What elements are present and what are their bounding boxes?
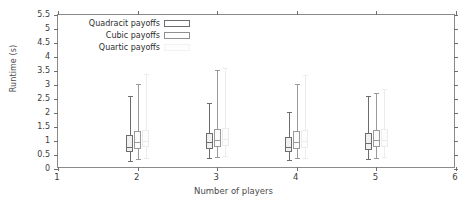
chart-legend: Quadracit payoffsCubic payoffsQuartic pa… bbox=[62, 18, 190, 54]
y-tick-label: 1 bbox=[24, 136, 50, 145]
x-tick-label: 6 bbox=[452, 172, 457, 182]
y-tick-right bbox=[454, 15, 458, 16]
x-tick bbox=[456, 167, 457, 171]
y-axis-label: Runtime (s) bbox=[9, 33, 18, 105]
x-tick bbox=[217, 167, 218, 171]
whisker-cap-low bbox=[366, 159, 371, 160]
box-iqr bbox=[206, 133, 213, 150]
box-iqr bbox=[373, 130, 380, 147]
whisker-cap-high bbox=[223, 68, 228, 69]
x-tick-label: 3 bbox=[213, 172, 218, 182]
whisker-cap-low bbox=[215, 157, 220, 158]
y-tick bbox=[54, 15, 58, 16]
median-line bbox=[285, 147, 292, 148]
y-tick-label: 3 bbox=[24, 80, 50, 89]
whisker-cap-high bbox=[215, 70, 220, 71]
whisker-cap-low bbox=[128, 161, 133, 162]
y-tick-label: 2 bbox=[24, 108, 50, 117]
box-iqr bbox=[214, 129, 221, 146]
x-tick-top bbox=[456, 11, 457, 15]
y-tick-right bbox=[454, 141, 458, 142]
whisker-cap-high bbox=[366, 96, 371, 97]
y-tick bbox=[54, 71, 58, 72]
legend-swatch bbox=[164, 44, 190, 51]
median-line bbox=[365, 143, 372, 144]
y-tick bbox=[54, 57, 58, 58]
whisker-cap-high bbox=[303, 75, 308, 76]
whisker-line bbox=[384, 89, 385, 157]
legend-swatch bbox=[164, 20, 190, 27]
y-tick bbox=[54, 127, 58, 128]
whisker-cap-high bbox=[207, 103, 212, 104]
whisker-cap-high bbox=[128, 96, 133, 97]
y-tick-right bbox=[454, 127, 458, 128]
whisker-cap-low bbox=[144, 158, 149, 159]
y-tick-label: 4.5 bbox=[24, 38, 50, 47]
x-tick bbox=[58, 167, 59, 171]
y-tick-label: 0 bbox=[24, 164, 50, 173]
y-tick bbox=[54, 85, 58, 86]
whisker-cap-high bbox=[374, 93, 379, 94]
y-tick bbox=[54, 29, 58, 30]
box-iqr bbox=[126, 135, 133, 152]
box-iqr bbox=[285, 137, 292, 152]
median-line bbox=[381, 140, 388, 141]
whisker-cap-high bbox=[136, 84, 141, 85]
x-tick-label: 5 bbox=[373, 172, 378, 182]
median-line bbox=[214, 140, 221, 141]
whisker-line bbox=[376, 93, 377, 158]
legend-label: Quartic payoffs bbox=[99, 43, 160, 52]
whisker-cap-low bbox=[207, 158, 212, 159]
y-tick-label: 0.5 bbox=[24, 150, 50, 159]
y-tick bbox=[54, 113, 58, 114]
y-tick-right bbox=[454, 29, 458, 30]
x-tick-top bbox=[217, 11, 218, 15]
x-tick-top bbox=[376, 11, 377, 15]
legend-item-1[interactable]: Cubic payoffs bbox=[62, 30, 190, 41]
median-line bbox=[126, 147, 133, 148]
median-line bbox=[373, 140, 380, 141]
legend-label: Quadracit payoffs bbox=[89, 19, 160, 28]
x-tick bbox=[138, 167, 139, 171]
x-tick bbox=[297, 167, 298, 171]
y-tick-right bbox=[454, 71, 458, 72]
whisker-cap-low bbox=[223, 156, 228, 157]
y-tick-label: 5 bbox=[24, 24, 50, 33]
whisker-cap-high bbox=[144, 74, 149, 75]
x-tick-top bbox=[58, 11, 59, 15]
box-iqr bbox=[301, 130, 308, 148]
y-tick-label: 2.5 bbox=[24, 94, 50, 103]
y-tick-label: 3.5 bbox=[24, 66, 50, 75]
legend-item-2[interactable]: Quartic payoffs bbox=[62, 42, 190, 53]
median-line bbox=[293, 142, 300, 143]
whisker-cap-high bbox=[382, 89, 387, 90]
y-tick bbox=[54, 43, 58, 44]
whisker-cap-low bbox=[295, 158, 300, 159]
box-iqr bbox=[365, 133, 372, 150]
median-line bbox=[134, 142, 141, 143]
median-line bbox=[142, 141, 149, 142]
whisker-cap-low bbox=[374, 158, 379, 159]
median-line bbox=[301, 141, 308, 142]
box-iqr bbox=[134, 131, 141, 149]
y-tick-right bbox=[454, 113, 458, 114]
legend-item-0[interactable]: Quadracit payoffs bbox=[62, 18, 190, 29]
whisker-line bbox=[209, 103, 210, 158]
box-iqr bbox=[222, 128, 229, 146]
y-tick-label: 1.5 bbox=[24, 122, 50, 131]
x-axis-label: Number of players bbox=[0, 186, 467, 196]
y-tick-label: 5.5 bbox=[24, 10, 50, 19]
whisker-cap-high bbox=[295, 84, 300, 85]
legend-label: Cubic payoffs bbox=[106, 31, 160, 40]
y-tick-right bbox=[454, 85, 458, 86]
x-tick-top bbox=[297, 11, 298, 15]
y-tick-right bbox=[454, 99, 458, 100]
median-line bbox=[206, 142, 213, 143]
x-tick bbox=[376, 167, 377, 171]
y-tick-right bbox=[454, 57, 458, 58]
y-tick bbox=[54, 99, 58, 100]
y-tick-label: 4 bbox=[24, 52, 50, 61]
median-line bbox=[222, 139, 229, 140]
box-iqr bbox=[142, 130, 149, 147]
whisker-cap-low bbox=[382, 157, 387, 158]
